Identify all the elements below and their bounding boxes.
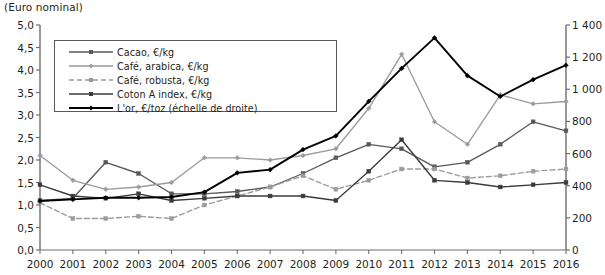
x-axis-tick-label: 2002 xyxy=(92,258,119,270)
x-axis-tick-label: 2009 xyxy=(323,258,350,270)
data-point xyxy=(465,176,469,180)
y-axis-left-tick-label: 0,5 xyxy=(0,222,34,234)
series-0 xyxy=(38,120,568,203)
data-point xyxy=(334,187,338,191)
legend-line-swatch-icon xyxy=(55,74,117,86)
y-axis-right-tick-label: 200 xyxy=(572,212,605,224)
data-point xyxy=(334,199,338,203)
data-point xyxy=(531,120,535,124)
data-point xyxy=(564,167,568,171)
y-axis-left-tick-label: 1,5 xyxy=(0,177,34,189)
x-axis-tick-label: 2016 xyxy=(553,258,580,270)
x-axis-tick-label: 2014 xyxy=(487,258,514,270)
data-point xyxy=(71,217,75,221)
legend-item-2: Café, robusta, €/kg xyxy=(55,73,336,87)
data-point xyxy=(136,185,141,190)
data-point xyxy=(367,178,371,182)
data-point xyxy=(170,217,174,221)
data-point xyxy=(400,147,404,151)
y-axis-right-tick-label: 0 xyxy=(572,244,605,256)
y-axis-left-tick-label: 3,5 xyxy=(0,87,34,99)
data-point xyxy=(38,183,42,187)
y-axis-right-tick-label: 400 xyxy=(572,180,605,192)
x-axis-tick-label: 2005 xyxy=(191,258,218,270)
x-axis-tick-label: 2013 xyxy=(454,258,481,270)
legend-item-label: Cacao, €/kg xyxy=(117,47,174,58)
chart-legend: Cacao, €/kgCafé, arabica, €/kgCafé, robu… xyxy=(54,40,337,112)
data-point xyxy=(531,169,535,173)
data-point xyxy=(498,185,502,189)
x-axis-tick-label: 2003 xyxy=(125,258,152,270)
data-point xyxy=(498,174,502,178)
legend-line-swatch-icon xyxy=(55,46,117,58)
y-axis-left-tick-label: 4,0 xyxy=(0,64,34,76)
x-axis-tick-label: 2006 xyxy=(224,258,251,270)
data-point xyxy=(498,142,502,146)
x-axis-tick-label: 2004 xyxy=(158,258,185,270)
data-point xyxy=(334,156,338,160)
data-point xyxy=(400,167,404,171)
y-axis-left-tick-label: 2,5 xyxy=(0,132,34,144)
data-point xyxy=(268,185,272,189)
data-point xyxy=(465,160,469,164)
data-point xyxy=(367,169,371,173)
legend-line-swatch-icon xyxy=(55,88,117,100)
data-point xyxy=(268,158,273,163)
data-point xyxy=(301,174,305,178)
x-axis-tick-label: 2001 xyxy=(60,258,87,270)
data-point xyxy=(433,178,437,182)
data-point xyxy=(235,190,239,194)
series-2 xyxy=(38,167,568,220)
data-point xyxy=(465,181,469,185)
data-point xyxy=(301,194,305,198)
data-point xyxy=(433,167,437,171)
y-axis-left-tick-label: 3,0 xyxy=(0,109,34,121)
data-point xyxy=(367,142,371,146)
y-axis-left-tick-label: 4,5 xyxy=(0,42,34,54)
legend-item-label: Café, robusta, €/kg xyxy=(117,75,209,86)
data-point xyxy=(564,129,568,133)
data-point xyxy=(235,155,240,160)
x-axis-tick-label: 2012 xyxy=(421,258,448,270)
data-point xyxy=(564,181,568,185)
data-point xyxy=(531,101,536,106)
x-axis-tick-label: 2000 xyxy=(27,258,54,270)
legend-item-0: Cacao, €/kg xyxy=(55,45,336,59)
data-point xyxy=(268,194,272,198)
y-axis-right-tick-label: 800 xyxy=(572,115,605,127)
legend-item-label: Café, arabica, €/kg xyxy=(117,61,209,72)
x-axis-tick-label: 2015 xyxy=(520,258,547,270)
data-point xyxy=(202,196,206,200)
legend-item-1: Café, arabica, €/kg xyxy=(55,59,336,73)
y-axis-left-tick-label: 0,0 xyxy=(0,244,34,256)
data-point xyxy=(104,217,108,221)
y-axis-right-tick-label: 600 xyxy=(572,148,605,160)
data-point xyxy=(235,194,239,198)
data-point xyxy=(136,195,141,200)
data-point xyxy=(137,172,141,176)
y-axis-left-tick-label: 1,0 xyxy=(0,199,34,211)
data-point xyxy=(531,183,535,187)
data-point xyxy=(104,160,108,164)
legend-item-4: L'or, €/toz (échelle de droite) xyxy=(55,101,336,115)
y-axis-left-tick-label: 5,0 xyxy=(0,19,34,31)
legend-line-swatch-icon xyxy=(55,60,117,72)
x-axis-tick-label: 2008 xyxy=(290,258,317,270)
y-axis-right-tick-label: 1 000 xyxy=(572,83,605,95)
legend-line-swatch-icon xyxy=(55,102,117,114)
data-point xyxy=(202,203,206,207)
legend-item-label: L'or, €/toz (échelle de droite) xyxy=(117,103,258,114)
legend-item-label: Coton A index, €/kg xyxy=(117,89,212,100)
data-point xyxy=(564,99,569,104)
data-point xyxy=(301,153,306,158)
x-axis-tick-label: 2011 xyxy=(388,258,415,270)
legend-item-3: Coton A index, €/kg xyxy=(55,87,336,101)
y-axis-right-tick-label: 1 400 xyxy=(572,19,605,31)
commodity-price-chart: (Euro nominal) Cacao, €/kgCafé, arabica,… xyxy=(0,0,605,275)
data-point xyxy=(103,187,108,192)
data-point xyxy=(400,138,404,142)
y-axis-left-tick-label: 2,0 xyxy=(0,154,34,166)
x-axis-tick-label: 2007 xyxy=(257,258,284,270)
data-point xyxy=(137,214,141,218)
y-axis-right-tick-label: 1 200 xyxy=(572,51,605,63)
